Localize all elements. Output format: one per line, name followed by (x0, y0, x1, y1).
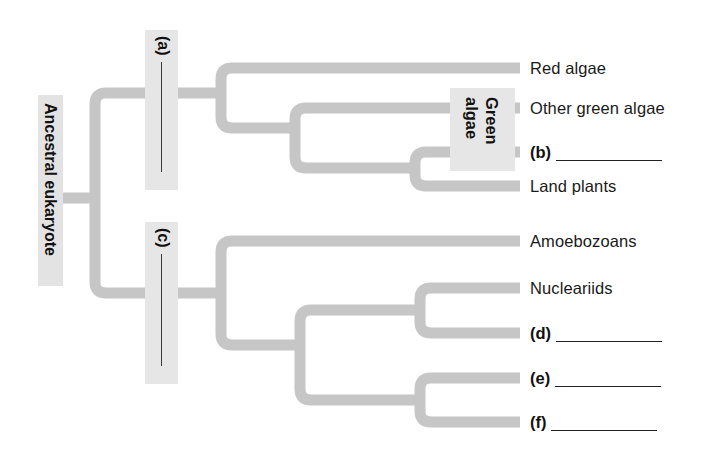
green-algae-label-line2: algae (464, 97, 481, 139)
tip-blank-f-rule[interactable] (551, 420, 657, 431)
tip-blank-e-rule[interactable] (555, 376, 661, 387)
branch-node-c-lower (221, 293, 300, 345)
tip-blank-f-key: (f) (530, 414, 546, 431)
node-a-key: (a) (155, 36, 171, 56)
tip-blank-d-rule[interactable] (556, 331, 662, 342)
branch-to-e (420, 378, 520, 400)
tip-blank-b-key: (b) (530, 144, 551, 161)
branch-to-f (420, 400, 520, 422)
phylogenetic-tree-diagram: Ancestral eukaryote Green algae (a) (c) … (0, 0, 707, 459)
node-c-key: (c) (155, 228, 171, 248)
tip-label-red-algae: Red algae (530, 60, 606, 77)
tip-blank-d[interactable]: (d) (530, 325, 662, 342)
node-a-answer-rule[interactable] (161, 62, 162, 172)
tip-blank-e-key: (e) (530, 370, 550, 387)
tip-label-nucleariids: Nucleariids (530, 280, 613, 297)
tip-blank-f[interactable]: (f) (530, 414, 657, 431)
branch-opisthokont-upper (300, 310, 420, 345)
tip-label-land-plants: Land plants (530, 178, 616, 195)
tip-label-other-green-algae: Other green algae (530, 100, 665, 117)
tip-blank-d-key: (d) (530, 325, 551, 342)
node-a-answer-box[interactable]: (a) (145, 30, 178, 190)
branch-opisthokont-lower (300, 345, 420, 400)
root-label-text: Ancestral eukaryote (42, 103, 58, 256)
tip-label-amoebozoans: Amoebozoans (530, 233, 637, 250)
node-c-answer-box[interactable]: (c) (145, 222, 178, 384)
green-algae-label-box: Green algae (450, 88, 515, 171)
branch-node-green-lower (295, 128, 415, 168)
node-c-answer-rule[interactable] (161, 254, 162, 366)
branch-to-d (420, 310, 520, 333)
green-algae-label-line1: Green (484, 97, 501, 145)
root-label-box: Ancestral eukaryote (38, 95, 63, 286)
branch-node-a-lower (221, 93, 295, 128)
branch-to-nucleariids (420, 288, 520, 310)
tip-blank-b-rule[interactable] (556, 150, 662, 161)
tip-blank-b[interactable]: (b) (530, 144, 662, 161)
tip-blank-e[interactable]: (e) (530, 370, 661, 387)
